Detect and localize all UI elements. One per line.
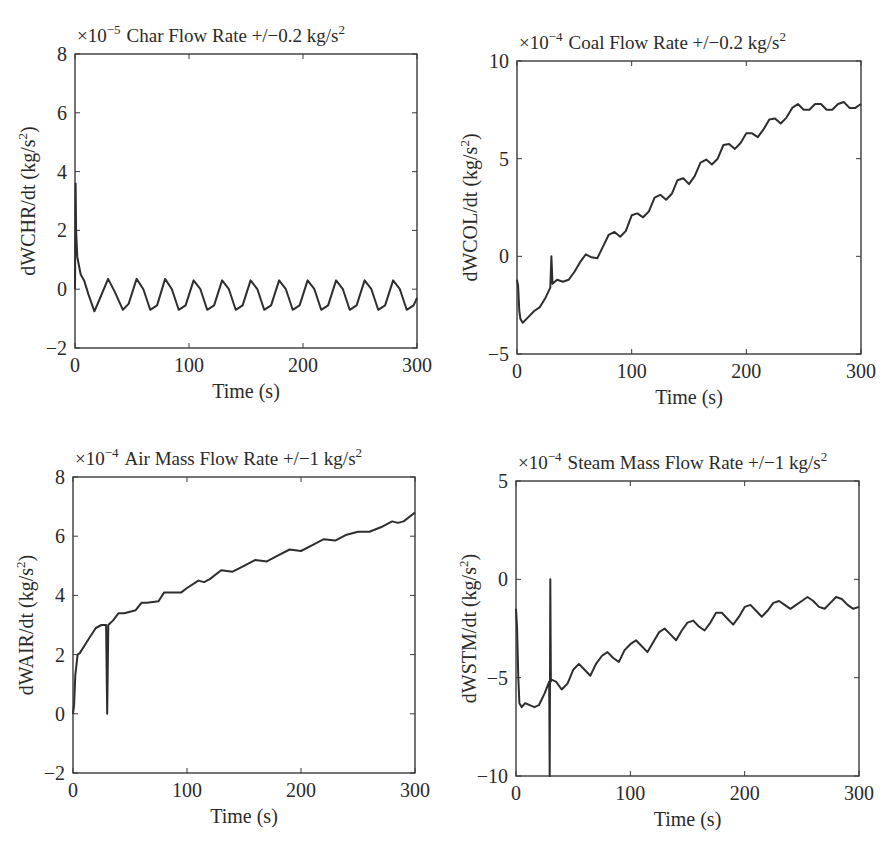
y-tick-label: −2	[46, 337, 67, 359]
x-tick-label: 200	[731, 360, 761, 382]
x-tick-label: 0	[512, 360, 522, 382]
x-tick-label: 200	[730, 782, 760, 804]
y-tick-label: 8	[55, 466, 65, 488]
figure-canvas: 0100200300−202468×10−5Char Flow Rate +/−…	[0, 0, 894, 841]
data-series-line	[516, 579, 859, 776]
y-tick-label: 6	[57, 102, 67, 124]
y-tick-label: 2	[57, 219, 67, 241]
x-tick-label: 0	[511, 782, 521, 804]
x-tick-label: 300	[844, 782, 874, 804]
y-tick-label: 5	[498, 470, 508, 492]
x-tick-label: 100	[615, 782, 645, 804]
x-tick-label: 100	[172, 779, 202, 801]
chart-title: ×10−4Steam Mass Flow Rate +/−1 kg/s2	[518, 449, 827, 473]
y-axis-label: dWCOL/dt (kg/s2)	[457, 133, 482, 281]
x-axis-label: Time (s)	[212, 380, 280, 403]
y-tick-label: 6	[55, 525, 65, 547]
chart-title: ×10−4Air Mass Flow Rate +/−1 kg/s2	[75, 445, 362, 469]
x-tick-label: 300	[846, 360, 876, 382]
scale-factor: ×10	[77, 25, 107, 46]
x-axis-label: Time (s)	[655, 386, 723, 409]
y-tick-label: 5	[499, 148, 509, 170]
data-series-line	[517, 102, 861, 323]
char-flow-rate-chart: 0100200300−202468×10−5Char Flow Rate +/−…	[15, 22, 432, 403]
plot-frame	[73, 477, 415, 773]
scale-factor: ×10	[519, 32, 549, 53]
data-series-line	[75, 183, 417, 311]
y-tick-label: 0	[498, 568, 508, 590]
x-tick-label: 200	[286, 779, 316, 801]
y-tick-label: 4	[55, 584, 65, 606]
chart-title-text: Char Flow Rate +/−0.2 kg/s	[127, 25, 339, 46]
y-tick-label: 2	[55, 644, 65, 666]
data-series-line	[73, 513, 415, 714]
x-axis-label: Time (s)	[210, 805, 278, 828]
plot-frame	[517, 61, 861, 354]
chart-title-text: Steam Mass Flow Rate +/−1 kg/s	[568, 452, 821, 473]
y-tick-label: 0	[499, 245, 509, 267]
chart-title-text: Coal Flow Rate +/−0.2 kg/s	[569, 32, 780, 53]
y-tick-label: −5	[487, 667, 508, 689]
y-tick-label: −2	[44, 762, 65, 784]
y-axis-label: dWSTM/dt (kg/s2)	[456, 554, 481, 703]
x-axis-label: Time (s)	[654, 808, 722, 831]
y-tick-label: 0	[55, 703, 65, 725]
y-tick-label: 10	[489, 50, 509, 72]
x-tick-label: 300	[400, 779, 430, 801]
x-tick-label: 100	[174, 354, 204, 376]
scale-factor: ×10	[75, 448, 105, 469]
chart-title: ×10−5Char Flow Rate +/−0.2 kg/s2	[77, 22, 345, 46]
y-tick-label: −10	[477, 765, 508, 787]
y-tick-label: 8	[57, 43, 67, 65]
y-tick-label: 4	[57, 161, 67, 183]
y-tick-label: −5	[488, 343, 509, 365]
scale-factor: ×10	[518, 452, 548, 473]
chart-title: ×10−4Coal Flow Rate +/−0.2 kg/s2	[519, 29, 786, 53]
plot-frame	[516, 481, 859, 776]
x-tick-label: 100	[617, 360, 647, 382]
x-tick-label: 0	[70, 354, 80, 376]
x-tick-label: 300	[402, 354, 432, 376]
air-mass-flow-rate-chart: 0100200300−202468×10−4Air Mass Flow Rate…	[13, 445, 430, 828]
y-axis-label: dWAIR/dt (kg/s2)	[13, 555, 38, 695]
plot-frame	[75, 54, 417, 348]
y-axis-label: dWCHR/dt (kg/s2)	[15, 126, 40, 275]
y-tick-label: 0	[57, 278, 67, 300]
x-tick-label: 200	[288, 354, 318, 376]
chart-title-text: Air Mass Flow Rate +/−1 kg/s	[125, 448, 356, 469]
steam-mass-flow-rate-chart: 0100200300−10−505×10−4Steam Mass Flow Ra…	[456, 449, 874, 831]
coal-flow-rate-chart: 0100200300−50510×10−4Coal Flow Rate +/−0…	[457, 29, 876, 409]
x-tick-label: 0	[68, 779, 78, 801]
